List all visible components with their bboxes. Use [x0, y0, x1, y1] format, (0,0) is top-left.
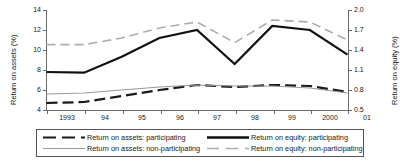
y-tick-right-0-5 — [349, 110, 352, 111]
chart-legend: Return on assets: participating Return o… — [36, 129, 364, 157]
y-label-left-8: 8 — [0, 66, 41, 73]
y-label-right-0-8: 0.8 — [354, 86, 364, 93]
legend-label-assets-nonparticipating: Return on assets: non-participating — [87, 145, 200, 153]
y-label-right-2-0: 2.0 — [354, 6, 364, 13]
x-label-2000: 2000 — [310, 114, 350, 121]
y-tick-right-0-8 — [349, 90, 352, 91]
series-lines — [46, 10, 348, 110]
x-label-98: 98 — [235, 114, 275, 121]
y-axis-right-line — [348, 10, 349, 111]
y-tick-right-1-1 — [349, 70, 352, 71]
y-label-right-1-4: 1.4 — [354, 46, 364, 53]
y-label-left-10: 10 — [0, 46, 41, 53]
black-solid-line-key — [205, 132, 251, 143]
y-label-left-4: 4 — [0, 106, 41, 113]
x-label-95: 95 — [122, 114, 162, 121]
legend-label-equity-participating: Return on equity: participating — [251, 134, 348, 142]
grey-dashed-line-key — [205, 143, 251, 154]
y-tick-right-2-0 — [349, 10, 352, 11]
y-label-left-14: 14 — [0, 6, 41, 13]
y-tick-right-1-7 — [349, 30, 352, 31]
legend-item-assets-nonparticipating[interactable]: Return on assets: non-participating — [41, 143, 200, 154]
y-label-right-1-1: 1.1 — [354, 66, 364, 73]
x-label-1993: 1993 — [47, 114, 87, 121]
legend-item-equity-participating[interactable]: Return on equity: participating — [205, 132, 363, 143]
y-axis-right-title: Return on equity (%) — [390, 36, 399, 105]
chart-figure: Return on assets (%) Return on equity (%… — [0, 0, 400, 163]
legend-column-equity: Return on equity: participating Return o… — [205, 132, 363, 154]
black-dashed-line-key — [41, 132, 87, 143]
series-line-3 — [47, 20, 348, 45]
legend-label-assets-participating: Return on assets: participating — [87, 134, 186, 142]
y-label-left-6: 6 — [0, 86, 41, 93]
legend-item-equity-nonparticipating[interactable]: Return on equity: non-participating — [205, 143, 363, 154]
x-label-97: 97 — [197, 114, 237, 121]
x-label-99: 99 — [272, 114, 312, 121]
legend-column-assets: Return on assets: participating Return o… — [41, 132, 200, 154]
x-label-94: 94 — [85, 114, 125, 121]
grey-solid-line-key — [41, 143, 87, 154]
y-tick-right-1-4 — [349, 50, 352, 51]
y-tick-left-4 — [43, 110, 46, 111]
plot-area — [46, 10, 348, 110]
legend-item-assets-participating[interactable]: Return on assets: participating — [41, 132, 200, 143]
y-label-right-0-5: 0.5 — [354, 106, 364, 113]
legend-label-equity-nonparticipating: Return on equity: non-participating — [251, 145, 363, 153]
x-label-96: 96 — [160, 114, 200, 121]
y-label-right-1-7: 1.7 — [354, 26, 364, 33]
x-label-01: 01 — [347, 114, 387, 121]
series-line-2 — [47, 26, 348, 73]
y-label-left-12: 12 — [0, 26, 41, 33]
